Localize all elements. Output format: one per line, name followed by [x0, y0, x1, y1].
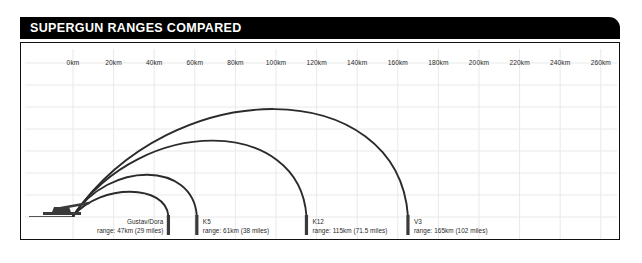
impact-marker — [406, 215, 409, 235]
x-axis-tick-label: 140km — [347, 59, 367, 66]
gun-annotation: K5range: 61km (38 miles) — [203, 218, 269, 235]
x-axis-tick-label: 60km — [187, 59, 204, 66]
impact-marker — [195, 215, 198, 235]
gun-annotation: Gustav/Dorarange: 47km (29 miles) — [97, 218, 163, 235]
x-axis-tick-label: 260km — [591, 59, 611, 66]
gun-range-label: range: 165km (102 miles) — [414, 227, 488, 236]
impact-marker — [167, 215, 170, 235]
gun-range-label: range: 47km (29 miles) — [97, 227, 163, 236]
x-axis-tick-label: 80km — [227, 59, 244, 66]
x-axis-tick-label: 120km — [306, 59, 326, 66]
x-axis-tick-label: 0km — [67, 59, 80, 66]
impact-marker — [305, 215, 308, 235]
x-axis-tick-label: 220km — [509, 59, 529, 66]
supergun-ranges-infographic: SUPERGUN RANGES COMPARED 0km20km40km60km… — [0, 0, 642, 263]
x-axis-tick-label: 180km — [428, 59, 448, 66]
ballistic-arcs-plot — [21, 43, 621, 241]
x-axis-tick-label: 20km — [105, 59, 122, 66]
gun-annotation: K12range: 115km (71.5 miles) — [312, 218, 387, 235]
gun-range-label: range: 115km (71.5 miles) — [312, 227, 387, 236]
gridlines — [25, 49, 617, 239]
gun-name-label: V3 — [414, 218, 488, 227]
page-title: SUPERGUN RANGES COMPARED — [30, 20, 242, 36]
gun-range-label: range: 61km (38 miles) — [203, 227, 269, 236]
header-bar: SUPERGUN RANGES COMPARED — [20, 17, 620, 39]
x-axis-tick-label: 240km — [550, 59, 570, 66]
railway-gun-icon — [43, 203, 89, 215]
x-axis-tick-label: 100km — [266, 59, 286, 66]
gun-name-label: Gustav/Dora — [97, 218, 163, 227]
trajectory-arc — [73, 109, 408, 216]
chart-area: 0km20km40km60km80km100km120km140km160km1… — [20, 42, 620, 240]
trajectory-arcs — [73, 109, 408, 216]
x-axis-tick-label: 160km — [388, 59, 408, 66]
gun-annotation: V3range: 165km (102 miles) — [414, 218, 488, 235]
trajectory-arc — [73, 141, 306, 216]
gun-name-label: K5 — [203, 218, 269, 227]
x-axis-tick-label: 200km — [469, 59, 489, 66]
x-axis-tick-label: 40km — [146, 59, 163, 66]
gun-name-label: K12 — [312, 218, 387, 227]
